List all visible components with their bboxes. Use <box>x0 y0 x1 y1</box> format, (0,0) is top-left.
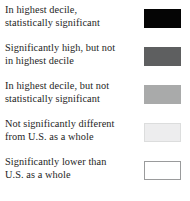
legend-label-line-1: In highest decile, but not <box>5 80 137 93</box>
legend-color-swatch <box>144 85 181 104</box>
legend-label-line-2: from U.S. as a whole <box>5 131 137 144</box>
legend-row: Not significantly different from U.S. as… <box>0 118 190 156</box>
map-legend: In highest decile, statistically signifi… <box>0 0 190 201</box>
legend-label-line-2-text: statistically significant <box>5 93 100 104</box>
legend-row: In highest decile, but not statistically… <box>0 80 190 118</box>
legend-color-swatch <box>144 161 181 180</box>
legend-label: In highest decile, statistically signifi… <box>5 4 137 29</box>
legend-label-line-1: In highest decile, <box>5 4 137 17</box>
legend-label-line-2: statistically significant <box>5 17 137 30</box>
legend-label-line-1: Not significantly different <box>5 118 137 131</box>
legend-label: Not significantly different from U.S. as… <box>5 118 137 143</box>
legend-label-line-2-prefix: from <box>5 131 28 142</box>
legend-row: Significantly high, but not in highest d… <box>0 42 190 80</box>
legend-label-line-2-text: in highest decile <box>5 55 74 66</box>
legend-label: Significantly high, but not in highest d… <box>5 42 137 67</box>
legend-color-swatch <box>144 47 181 66</box>
legend-label: In highest decile, but not statistically… <box>5 80 137 105</box>
legend-label-line-2-smallcaps: U.S. <box>28 131 47 142</box>
legend-label-line-1: Significantly lower than <box>5 156 137 169</box>
legend-color-swatch <box>144 123 181 142</box>
legend-color-swatch <box>144 9 181 28</box>
legend-row: In highest decile, statistically signifi… <box>0 4 190 42</box>
legend-label-line-2: U.S. as a whole <box>5 169 137 182</box>
legend-label: Significantly lower than U.S. as a whole <box>5 156 137 181</box>
legend-row: Significantly lower than U.S. as a whole <box>0 156 190 194</box>
legend-label-line-2: in highest decile <box>5 55 137 68</box>
legend-label-line-2-text: statistically significant <box>5 17 100 28</box>
legend-label-line-2-smallcaps: U.S. <box>5 169 24 180</box>
legend-label-line-1: Significantly high, but not <box>5 42 137 55</box>
legend-label-line-2-suffix: as a whole <box>24 169 71 180</box>
legend-label-line-2-suffix: as a whole <box>47 131 94 142</box>
legend-label-line-2: statistically significant <box>5 93 137 106</box>
